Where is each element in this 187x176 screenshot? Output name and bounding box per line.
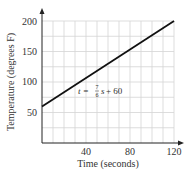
y-axis-title: Temperature (degrees F) bbox=[5, 33, 17, 131]
equation-numerator: 7 bbox=[96, 84, 99, 90]
y-tick-label: 200 bbox=[22, 16, 37, 27]
y-tick-label: 100 bbox=[22, 76, 37, 87]
y-tick-label: 50 bbox=[27, 107, 37, 118]
equation-lhs: t = bbox=[78, 86, 89, 96]
x-tick-label: 120 bbox=[167, 146, 182, 157]
equation-variable: s bbox=[101, 86, 105, 96]
chart: 200 150 100 50 40 80 120 Time (seconds) … bbox=[0, 0, 187, 176]
grid bbox=[42, 21, 174, 143]
x-axis-title: Time (seconds) bbox=[77, 158, 139, 170]
equation-annotation: t = 7 6 s + 60 bbox=[78, 84, 123, 98]
x-axis-arrow-icon bbox=[178, 141, 184, 146]
x-tick-label: 80 bbox=[125, 146, 135, 157]
equation-denominator: 6 bbox=[96, 92, 99, 98]
y-axis-arrow-icon bbox=[40, 8, 45, 14]
equation-constant: + 60 bbox=[106, 86, 123, 96]
x-tick-label: 40 bbox=[81, 146, 91, 157]
y-tick-label: 150 bbox=[22, 46, 37, 57]
